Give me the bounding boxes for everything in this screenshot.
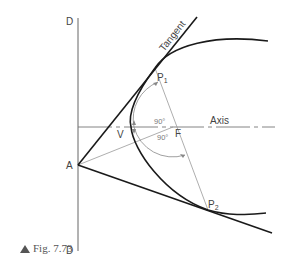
label-angle-lower: 90°: [157, 133, 168, 142]
triangle-icon: [20, 245, 30, 253]
label-angle-upper: 90°: [154, 117, 165, 126]
figure-caption: Fig. 7.73: [20, 242, 72, 254]
label-focus: F: [175, 128, 181, 139]
tangent-upper: [78, 17, 197, 165]
label-p1: P1: [157, 72, 168, 84]
label-point-a: A: [66, 160, 73, 171]
parabola-tangent-diagram: D D A V F P1 P2 Axis Tangent 90° 90°: [0, 0, 287, 269]
label-axis: Axis: [210, 115, 229, 126]
label-p2: P2: [208, 199, 219, 211]
label-vertex: V: [117, 129, 124, 140]
tangent-lower: [78, 165, 272, 233]
arrowhead-icon: [132, 120, 136, 125]
label-directrix-top: D: [66, 16, 73, 27]
caption-text: Fig. 7.73: [33, 242, 72, 254]
